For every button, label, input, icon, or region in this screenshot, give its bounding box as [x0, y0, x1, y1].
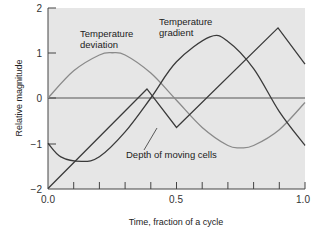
x-axis-title: Time, fraction of a cycle	[129, 217, 224, 227]
annotation-temperature-deviation: deviation	[80, 39, 118, 50]
x-tick-label: 0.0	[41, 194, 55, 205]
chart: 2 1 0 −1 −2 0.0 0.5 1.0 Time, fraction o…	[0, 0, 318, 239]
annotation-depth-of-moving-cells: Depth of moving cells	[126, 149, 217, 160]
y-axis-title: Relative magnitude	[14, 59, 24, 136]
annotation-temperature-gradient: Temperature	[159, 16, 212, 27]
y-tick-label: 1	[36, 48, 42, 59]
annotation-temperature-deviation: Temperature	[80, 28, 133, 39]
annotation-temperature-gradient: gradient	[159, 27, 194, 38]
y-tick-label: 0	[36, 93, 42, 104]
y-tick-label: −1	[31, 139, 43, 150]
y-tick-label: 2	[36, 3, 42, 14]
x-tick-label: 1.0	[296, 194, 310, 205]
x-tick-label: 0.5	[169, 194, 183, 205]
